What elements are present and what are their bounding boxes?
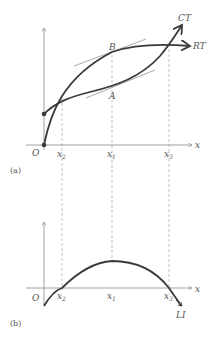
origin-dot [42, 143, 47, 148]
diagram: CT RT B A O x x2 x1 x3 (a) O x LI x2 x1 … [0, 0, 217, 339]
tick-x2-b: x2 [57, 291, 66, 302]
point-a-label: A [108, 91, 116, 101]
tick-x3-a: x3 [164, 149, 173, 160]
tick-x1-b: x1 [107, 291, 116, 302]
x-axis-label-b: x [195, 284, 200, 294]
ct-start-dot [42, 112, 47, 117]
caption-a: (a) [10, 166, 21, 175]
x-axis-label-a: x [195, 140, 200, 150]
tick-x2-a: x2 [57, 149, 66, 160]
profit-label: LI [175, 310, 186, 320]
panel-b: O x LI x2 x1 x3 (b) [10, 222, 200, 328]
rt-label: RT [192, 41, 207, 51]
ct-label: CT [178, 13, 192, 23]
origin-label-a: O [32, 148, 40, 158]
panel-a: CT RT B A O x x2 x1 x3 (a) [10, 13, 207, 290]
rt-curve [44, 45, 190, 145]
origin-label-b: O [32, 293, 40, 303]
tick-x1-a: x1 [107, 149, 116, 160]
point-b-label: B [108, 42, 116, 52]
caption-b: (b) [10, 319, 21, 328]
tangent-a [86, 70, 155, 98]
